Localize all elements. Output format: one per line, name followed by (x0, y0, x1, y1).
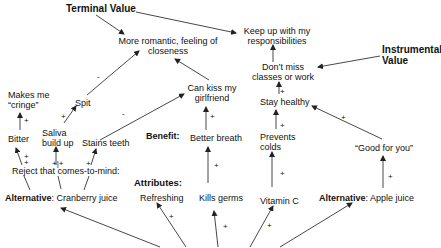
node-can-kiss-line2: girlfriend (187, 93, 236, 103)
plus-sign: + (61, 113, 66, 121)
node-responsibilities-line1: Keep up with my (244, 26, 311, 36)
plus-sign: +|+ (52, 160, 63, 168)
instrumental-value-label-line1: Instrumental (382, 44, 441, 55)
connector-lines (0, 0, 441, 248)
plus-sign: + (223, 223, 228, 231)
plus-sign: + (214, 162, 219, 170)
node-bitter: Bitter (8, 134, 29, 144)
node-responsibilities-line2: responsibilities (244, 36, 311, 46)
alternative-value: : Cranberry juice (52, 193, 118, 203)
node-dont-miss: Don’t miss classes or work (252, 62, 314, 82)
plus-sign: + (280, 88, 285, 96)
node-reject-that-comes-to-mind: Reject that comes-to-mind: (12, 166, 120, 176)
node-prevents-colds-line1: Prevents (260, 132, 296, 142)
alternative-apple-juice: Alternative: Apple juice (319, 193, 414, 203)
node-more-romantic-line1: More romantic, feeling of (118, 36, 217, 46)
node-saliva-build-up: Saliva build up (42, 128, 74, 148)
plus-sign: + (24, 159, 29, 167)
node-responsibilities: Keep up with my responsibilities (244, 26, 311, 46)
node-kills-germs: Kills germs (199, 193, 243, 203)
node-stains-teeth: Stains teeth (82, 138, 130, 148)
plus-sign: + (280, 122, 285, 130)
node-makes-cringe-line2: “cringe” (8, 100, 50, 110)
alternative-cranberry-juice: Alternative: Cranberry juice (5, 193, 118, 203)
node-dont-miss-line2: classes or work (252, 72, 314, 82)
node-more-romantic: More romantic, feeling of closeness (118, 36, 217, 56)
node-can-kiss: Can kiss my girlfriend (187, 83, 236, 103)
node-refreshing: Refreshing (140, 193, 184, 203)
plus-sign: + (267, 222, 272, 230)
plus-sign: + (388, 173, 393, 181)
node-better-breath: Better breath (190, 133, 242, 143)
plus-sign: + (280, 170, 285, 178)
benefit-label: Benefit: (146, 131, 180, 141)
node-more-romantic-line2: closeness (118, 46, 217, 56)
plus-sign: + (169, 213, 174, 221)
node-vitamin-c: Vitamin C (260, 196, 299, 206)
node-makes-cringe-line1: Makes me (8, 90, 50, 100)
plus-sign: + (210, 113, 215, 121)
attributes-label: Attributes: (134, 178, 182, 188)
alternative-value: : Apple juice (366, 193, 415, 203)
minus-sign: - (97, 73, 100, 81)
plus-sign: + (86, 160, 91, 168)
node-spit: Spit (75, 98, 91, 108)
node-makes-cringe: Makes me “cringe” (8, 90, 50, 110)
minus-sign: - (122, 110, 125, 118)
node-saliva-line1: Saliva (42, 128, 74, 138)
plus-sign: + (24, 117, 29, 125)
node-can-kiss-line1: Can kiss my (187, 83, 236, 93)
node-stay-healthy: Stay healthy (260, 97, 310, 107)
node-prevents-colds: Prevents colds (260, 132, 296, 152)
node-dont-miss-line1: Don’t miss (252, 62, 314, 72)
instrumental-value-label-line2: Value (382, 55, 408, 66)
alternative-label: Alternative (5, 193, 52, 203)
terminal-value-label: Terminal Value (66, 3, 136, 14)
alternative-label: Alternative (319, 193, 366, 203)
means-end-chain-diagram: Terminal Value Instrumental Value Benefi… (0, 0, 441, 248)
node-prevents-colds-line2: colds (260, 142, 296, 152)
node-good-for-you: “Good for you” (355, 143, 413, 153)
plus-sign: + (341, 114, 346, 122)
node-saliva-line2: build up (42, 138, 74, 148)
